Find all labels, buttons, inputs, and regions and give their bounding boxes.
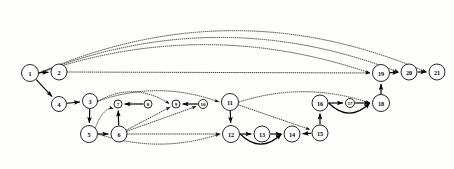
node-label: 15 (317, 130, 323, 137)
graph-node-11[interactable]: 11 (222, 94, 239, 111)
node-label: 12 (228, 131, 234, 138)
graph-node-1[interactable]: 1 (22, 65, 39, 82)
node-label: 16 (317, 100, 323, 107)
node-label: 10 (201, 102, 207, 107)
graph-edge (39, 31, 426, 73)
graph-node-8[interactable]: 8 (144, 100, 152, 108)
graph-canvas: 123456789101112131415161718192021 (0, 0, 454, 169)
graph-node-17[interactable]: 17 (346, 99, 355, 108)
node-layer: 123456789101112131415161718192021 (22, 64, 446, 143)
node-label: 18 (378, 100, 384, 107)
graph-node-6[interactable]: 6 (111, 126, 127, 142)
node-label: 11 (227, 99, 233, 106)
graph-node-9[interactable]: 9 (172, 100, 180, 108)
graph-edge (239, 105, 310, 130)
graph-diagram: 123456789101112131415161718192021 (0, 0, 454, 169)
node-label: 21 (434, 69, 440, 76)
graph-node-2[interactable]: 2 (51, 64, 67, 80)
node-label: 20 (406, 69, 412, 76)
graph-node-3[interactable]: 3 (83, 94, 98, 109)
graph-edge (68, 72, 370, 73)
node-label: 5 (87, 131, 90, 138)
node-label: 14 (289, 131, 295, 138)
node-label: 19 (378, 70, 384, 77)
graph-edge (36, 80, 52, 97)
graph-node-10[interactable]: 10 (199, 100, 208, 109)
node-label: 3 (88, 98, 91, 105)
node-label: 1 (28, 70, 31, 77)
graph-node-14[interactable]: 14 (284, 126, 300, 142)
graph-edge (39, 37, 398, 73)
graph-node-4[interactable]: 4 (52, 97, 67, 112)
node-label: 6 (117, 131, 120, 138)
node-label: 4 (57, 101, 60, 108)
node-label: 13 (259, 131, 265, 138)
graph-node-7[interactable]: 7 (114, 100, 122, 108)
graph-edge (67, 102, 80, 103)
graph-node-13[interactable]: 13 (254, 126, 270, 142)
node-label: 17 (348, 101, 354, 106)
graph-node-19[interactable]: 19 (373, 65, 390, 82)
graph-node-12[interactable]: 12 (223, 126, 240, 143)
graph-edge (39, 45, 370, 73)
graph-node-15[interactable]: 15 (312, 125, 328, 141)
graph-edge (95, 108, 113, 127)
graph-edge (127, 106, 196, 131)
graph-node-5[interactable]: 5 (81, 126, 98, 143)
node-label: 2 (57, 69, 60, 76)
graph-node-16[interactable]: 16 (312, 95, 328, 111)
graph-node-18[interactable]: 18 (373, 95, 390, 112)
graph-edge (127, 107, 171, 130)
graph-node-20[interactable]: 20 (401, 64, 417, 80)
graph-node-21[interactable]: 21 (429, 64, 445, 80)
